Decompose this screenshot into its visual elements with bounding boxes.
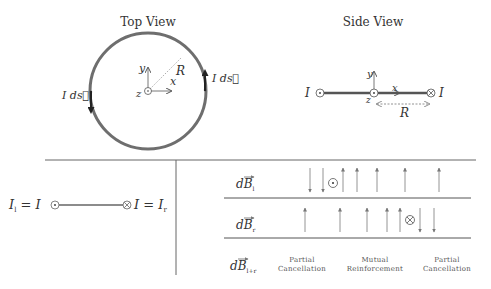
top-view: Top View R y x z I ds⃗ I ds⃗ <box>61 15 239 149</box>
side-view-title: Side View <box>343 15 404 29</box>
z-axis-dot-icon <box>147 90 149 92</box>
annotation-left-line2: Cancellation <box>278 265 326 273</box>
edge-on-loop: Il = I I = Ir <box>8 197 167 214</box>
wire-out-dot-icon <box>332 182 334 184</box>
field-table: dBl dBr dBl+r <box>224 168 471 274</box>
row-label-total-field: dBl+r <box>230 259 256 274</box>
left-element-label: I ds⃗ <box>61 89 89 102</box>
row-label-left-field: dBl <box>236 177 255 192</box>
left-current-label: I <box>304 86 310 100</box>
right-element-dot-icon <box>204 89 206 91</box>
annotation-right-line2: Cancellation <box>423 265 471 273</box>
annotation-center-line2: Reinforcement <box>347 265 403 273</box>
side-view: Side View I I y x z R <box>304 15 444 120</box>
radius-label: R <box>175 64 185 78</box>
row-label-right-field: dBr <box>236 218 256 233</box>
side-y-axis-label: y <box>366 68 373 79</box>
diagram-canvas: Top View R y x z I ds⃗ I ds⃗ Side View I… <box>0 0 491 289</box>
annotation-right-line1: Partial <box>434 256 460 264</box>
left-current-eq: Il = I <box>8 197 42 214</box>
side-z-dot-icon <box>373 92 375 94</box>
x-axis-label: x <box>170 75 177 88</box>
right-element-label: I ds⃗ <box>211 72 239 85</box>
right-current-eq: I = Ir <box>133 197 167 214</box>
bottom-current-out-dot-icon <box>54 204 56 206</box>
z-axis-label: z <box>135 88 142 99</box>
annotation-left-line1: Partial <box>289 256 315 264</box>
y-axis-label: y <box>138 62 146 75</box>
left-element-dot-icon <box>90 91 92 93</box>
annotation-center-line1: Mutual <box>361 256 389 264</box>
current-out-dot-icon <box>319 92 321 94</box>
top-view-title: Top View <box>120 15 176 29</box>
side-x-axis-label: x <box>392 82 398 93</box>
side-z-axis-label: z <box>365 95 371 105</box>
side-radius-label: R <box>399 106 409 120</box>
right-current-label: I <box>438 86 444 100</box>
